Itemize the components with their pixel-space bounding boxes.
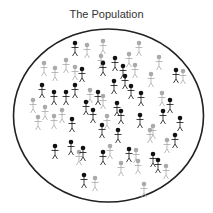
person-icon-light <box>30 98 37 113</box>
person-icon-light <box>148 72 155 87</box>
person-icon-dark <box>177 116 184 131</box>
person-icon-light <box>159 91 166 106</box>
person-icon-dark <box>69 117 76 132</box>
person-icon-dark <box>95 90 102 105</box>
person-icon-light <box>52 66 59 81</box>
person-icon-dark <box>167 98 174 113</box>
person-icon-dark <box>52 144 59 159</box>
person-icon-dark <box>128 84 135 99</box>
person-icon-dark <box>39 83 46 98</box>
person-icon-light <box>76 150 83 165</box>
person-icon-light <box>41 61 48 76</box>
person-icon-dark <box>68 140 75 155</box>
person-icon-dark <box>160 109 167 124</box>
person-icon-light <box>107 144 114 159</box>
person-icon-light <box>180 69 187 84</box>
person-icon-dark <box>155 158 162 173</box>
person-icon-light <box>118 161 125 176</box>
person-icon-dark <box>63 90 70 105</box>
person-icon-light <box>42 105 49 120</box>
person-icon-dark <box>111 79 118 94</box>
person-icon-light <box>92 176 99 191</box>
person-icon-light <box>136 41 143 56</box>
person-icon-dark <box>90 108 97 123</box>
person-icon-dark <box>114 101 121 116</box>
people-group <box>30 39 187 197</box>
person-icon-dark <box>137 113 144 128</box>
person-icon-dark <box>51 90 58 105</box>
person-icon-dark <box>72 83 79 98</box>
person-icon-dark <box>99 123 106 138</box>
person-icon-light <box>164 138 171 153</box>
person-icon-light <box>126 52 133 67</box>
person-icon-dark <box>100 150 107 165</box>
person-icon-light <box>63 58 70 73</box>
person-icon-light <box>104 114 111 129</box>
person-icon-dark <box>172 133 179 148</box>
person-icon-dark <box>100 61 107 76</box>
person-icon-dark <box>126 147 133 162</box>
person-icon-light <box>156 55 163 70</box>
person-icon-dark <box>72 41 79 56</box>
population-diagram <box>0 0 213 213</box>
person-icon-dark <box>115 128 122 143</box>
person-icon-light <box>163 164 170 179</box>
person-icon-light <box>135 159 142 174</box>
person-icon-light <box>59 108 66 123</box>
person-icon-dark <box>138 91 145 106</box>
person-icon-dark <box>79 67 86 82</box>
person-icon-light <box>51 114 58 129</box>
person-icon-light <box>35 115 42 130</box>
person-icon-light <box>100 39 107 54</box>
person-icon-dark <box>81 173 88 188</box>
person-icon-light <box>100 94 107 109</box>
person-icon-light <box>132 63 139 78</box>
person-icon-dark <box>112 56 119 71</box>
person-icon-light <box>72 65 79 80</box>
person-icon-dark <box>173 68 180 83</box>
person-icon-dark <box>118 109 125 124</box>
person-icon-light <box>84 43 91 58</box>
